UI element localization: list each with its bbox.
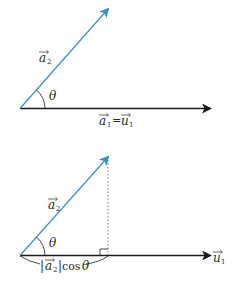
vector-a1-equals-u1-label: a 1 = u 1 xyxy=(99,113,133,129)
svg-text:a: a xyxy=(99,114,106,128)
vector-a2-label: a 2 xyxy=(48,197,60,213)
vector-a2-arrow xyxy=(20,9,108,109)
svg-text:u: u xyxy=(213,251,221,265)
angle-arc xyxy=(37,237,46,256)
svg-text:1: 1 xyxy=(221,258,225,266)
angle-theta-label: θ xyxy=(49,236,57,250)
svg-text:|: | xyxy=(40,259,44,273)
svg-text:1: 1 xyxy=(129,121,133,129)
svg-text:a: a xyxy=(39,51,46,65)
svg-text:u: u xyxy=(121,114,129,128)
projection-length-label: | a 2 | cos θ xyxy=(40,258,90,274)
svg-text:2: 2 xyxy=(47,58,51,66)
right-angle-marker xyxy=(100,249,108,256)
svg-text:θ: θ xyxy=(82,259,90,273)
figure-top: θ a 2 a 1 = u 1 xyxy=(20,9,210,129)
vector-projection-diagram: θ a 2 a 1 = u 1 θ a 2 xyxy=(0,0,235,297)
svg-text:cos: cos xyxy=(62,260,81,273)
angle-arc xyxy=(37,90,46,109)
vector-a2-arrow xyxy=(20,157,108,256)
svg-text:1: 1 xyxy=(107,121,111,129)
svg-text:a: a xyxy=(48,198,55,212)
angle-theta-label: θ xyxy=(49,89,57,103)
svg-text:2: 2 xyxy=(56,205,60,213)
figure-bottom: θ a 2 | a 2 | cos θ u 1 xyxy=(20,157,225,274)
svg-text:2: 2 xyxy=(53,266,57,274)
vector-u1-label: u 1 xyxy=(213,250,225,266)
svg-text:a: a xyxy=(45,259,52,273)
vector-a2-label: a 2 xyxy=(39,50,51,66)
svg-text:=: = xyxy=(112,114,121,127)
